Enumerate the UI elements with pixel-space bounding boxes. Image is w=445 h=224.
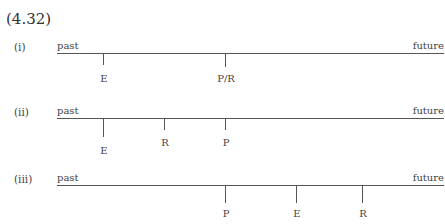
diagram-label: (ii) bbox=[14, 106, 29, 118]
future-label: future bbox=[413, 40, 444, 51]
point-label-r: R bbox=[161, 137, 169, 148]
tick-e bbox=[296, 185, 297, 203]
future-label: future bbox=[413, 172, 444, 183]
timeline-axis bbox=[57, 185, 444, 186]
equation-number: (4.32) bbox=[6, 10, 51, 28]
point-label-e: E bbox=[293, 208, 300, 219]
past-label: past bbox=[57, 40, 79, 51]
tick-e bbox=[103, 53, 104, 65]
point-label-p: P bbox=[223, 208, 230, 219]
point-label-p-r: P/R bbox=[217, 73, 235, 84]
timeline-axis bbox=[57, 118, 444, 119]
diagram-label: (iii) bbox=[14, 173, 32, 185]
point-label-p: P bbox=[223, 137, 230, 148]
timeline-axis bbox=[57, 53, 444, 54]
future-label: future bbox=[413, 105, 444, 116]
past-label: past bbox=[57, 105, 79, 116]
tick-r bbox=[362, 185, 363, 203]
tick-e bbox=[103, 118, 104, 137]
point-label-e: E bbox=[100, 145, 107, 156]
point-label-e: E bbox=[100, 73, 107, 84]
point-label-r: R bbox=[359, 208, 367, 219]
diagram-label: (i) bbox=[14, 41, 26, 53]
tick-p bbox=[225, 185, 226, 203]
tick-r bbox=[164, 118, 165, 130]
tick-p-r bbox=[225, 53, 226, 67]
past-label: past bbox=[57, 172, 79, 183]
tick-p bbox=[225, 118, 226, 130]
